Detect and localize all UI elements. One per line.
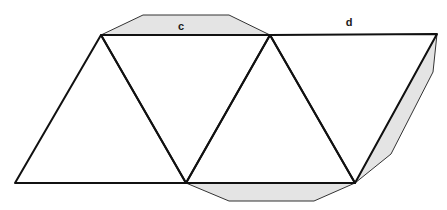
triangle-face-2 [101,35,270,183]
top-tab [101,15,270,35]
edge-label-c: c [178,21,184,32]
triangle-face-3 [186,35,355,183]
triangle-face-1 [15,35,186,183]
net-diagram-svg [0,0,447,210]
glue-tabs [101,15,437,201]
net-diagram: c d [0,0,447,210]
bottom-tab [186,183,355,201]
edge-label-d: d [346,17,353,28]
